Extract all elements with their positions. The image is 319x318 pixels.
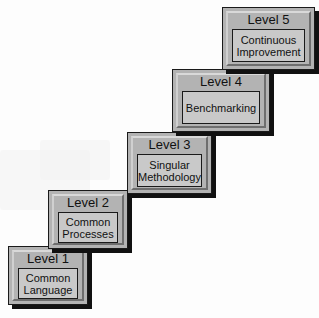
description-line: Language <box>24 284 73 296</box>
level-label: Level 1 <box>9 252 87 266</box>
description-line: Methodology <box>138 171 201 183</box>
level-label: Level 5 <box>223 13 314 27</box>
step-level-4: Level 4 Benchmarking <box>172 69 270 132</box>
step-level-5: Level 5 Continuous Improvement <box>222 7 315 70</box>
step-level-3: Level 3 Singular Methodology <box>127 132 212 194</box>
description-line: Singular <box>149 159 189 171</box>
step-description: Continuous Improvement <box>232 29 305 62</box>
description-line: Improvement <box>236 46 300 58</box>
description-line: Common <box>26 272 71 284</box>
step-description: Benchmarking <box>182 91 260 124</box>
description-line: Continuous <box>241 34 297 46</box>
description-line: Benchmarking <box>186 102 256 114</box>
step-level-1: Level 1 Common Language <box>8 246 88 305</box>
level-label: Level 3 <box>128 138 211 152</box>
step-description: Common Processes <box>58 212 118 243</box>
level-label: Level 4 <box>173 75 269 89</box>
description-line: Common <box>66 216 111 228</box>
step-description: Common Language <box>18 268 78 299</box>
background-ghost <box>40 140 110 180</box>
description-line: Processes <box>62 228 113 240</box>
step-level-2: Level 2 Common Processes <box>48 190 128 249</box>
step-description: Singular Methodology <box>137 154 202 187</box>
level-label: Level 2 <box>49 196 127 210</box>
